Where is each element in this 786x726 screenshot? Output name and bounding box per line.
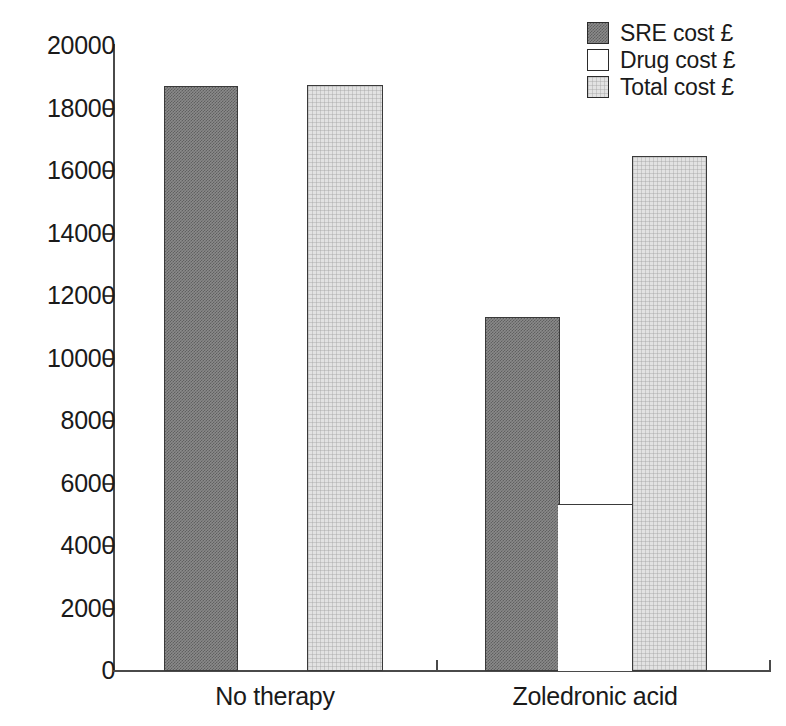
y-tick-label-20000: 20000 xyxy=(15,33,115,58)
legend-swatch-drug-cost xyxy=(587,49,609,71)
x-axis-label-zoledronic-acid: Zoledronic acid xyxy=(470,681,720,711)
x-tick-right-end xyxy=(769,660,771,671)
y-tick-label-16000: 16000 xyxy=(15,158,115,183)
legend-item-sre-cost: SRE cost £ xyxy=(587,20,777,46)
y-tick-label-2000: 2000 xyxy=(15,596,115,621)
legend-item-drug-cost: Drug cost £ xyxy=(587,47,777,73)
legend-label-drug-cost: Drug cost £ xyxy=(620,49,735,72)
bar-zoledronic-acid-sre-cost xyxy=(485,317,560,671)
y-tick-label-10000: 10000 xyxy=(15,346,115,371)
bar-zoledronic-acid-total-cost xyxy=(632,156,707,671)
legend-swatch-total-cost xyxy=(587,76,609,98)
bar-no-therapy-total-cost xyxy=(307,85,383,671)
legend-item-total-cost: Total cost £ xyxy=(587,74,777,100)
y-tick-label-6000: 6000 xyxy=(15,471,115,496)
y-tick-label-8000: 8000 xyxy=(15,408,115,433)
y-tick-label-4000: 4000 xyxy=(15,533,115,558)
y-tick-label-14000: 14000 xyxy=(15,221,115,246)
legend-label-total-cost: Total cost £ xyxy=(620,76,734,99)
chart-legend: SRE cost £ Drug cost £ Total cost £ xyxy=(587,20,777,101)
x-axis-label-no-therapy: No therapy xyxy=(170,681,380,711)
legend-swatch-sre-cost xyxy=(587,22,609,44)
bar-chart: SRE cost £ Drug cost £ Total cost £ 2000… xyxy=(0,0,786,726)
legend-label-sre-cost: SRE cost £ xyxy=(620,22,733,45)
bar-zoledronic-acid-drug-cost xyxy=(558,504,634,671)
y-tick-label-12000: 12000 xyxy=(15,283,115,308)
x-tick-group-separator xyxy=(436,660,438,671)
y-tick-label-18000: 18000 xyxy=(15,96,115,121)
y-tick-label-0: 0 xyxy=(15,658,115,683)
bar-no-therapy-sre-cost xyxy=(164,86,238,671)
